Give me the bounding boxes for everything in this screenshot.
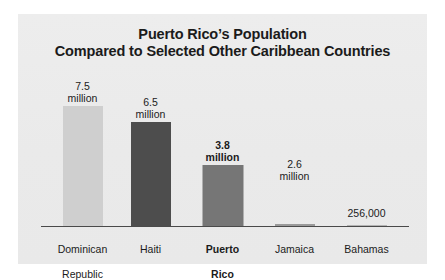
chart-panel: Puerto Rico’s Population Compared to Sel… [18,14,427,264]
bar-value-line-1: 2.6 [287,158,302,170]
plot-area: 7.5 million 6.5 million 3.8 million [41,74,409,226]
bar-value-line-2: million [68,92,98,104]
x-tick-line-2: Rico [211,268,234,280]
bar-value-line-1: 7.5 [75,80,90,92]
x-tick-label-jamaica: Jamaica [253,230,336,255]
bar-value-label-puerto-rico: 3.8 million [206,139,240,163]
x-axis-labels: Dominican Republic Haiti Puerto Rico Jam… [41,230,409,270]
x-tick-line-1: Dominican [58,243,108,255]
bar-haiti[interactable] [131,122,171,226]
bar-value-line-2: million [280,170,310,182]
bar-value-line-1: 6.5 [143,96,158,108]
x-tick-label-puerto-rico: Puerto Rico [181,230,264,280]
bar-dominican-republic[interactable] [63,106,103,226]
bar-group-bahamas: 256,000 [325,74,408,226]
bar-value-label-bahamas: 256,000 [348,207,386,219]
bar-value-label-dominican-republic: 7.5 million [68,80,98,104]
x-tick-line-2: Republic [62,268,103,280]
bar-value-label-haiti: 6.5 million [136,96,166,120]
bar-value-line-1: 3.8 [215,139,230,151]
x-tick-line-1: Bahamas [344,243,388,255]
bar-value-line-1: 256,000 [348,207,386,219]
bar-group-puerto-rico: 3.8 million [181,74,264,226]
bar-group-haiti: 6.5 million [109,74,192,226]
x-tick-label-haiti: Haiti [109,230,192,255]
bar-value-line-2: million [136,108,166,120]
bar-group-jamaica: 2.6 million [253,74,336,226]
x-tick-line-1: Puerto [206,243,239,255]
bar-puerto-rico[interactable] [202,165,243,226]
x-axis-line [41,226,409,227]
chart-title: Puerto Rico’s Population Compared to Sel… [18,26,427,60]
x-tick-line-1: Jamaica [275,243,314,255]
chart-title-line-1: Puerto Rico’s Population [18,26,427,43]
x-tick-line-1: Haiti [140,243,161,255]
chart-title-line-2: Compared to Selected Other Caribbean Cou… [18,43,427,60]
bar-value-label-jamaica: 2.6 million [280,158,310,182]
x-tick-label-bahamas: Bahamas [325,230,408,255]
bar-value-line-2: million [206,151,240,163]
